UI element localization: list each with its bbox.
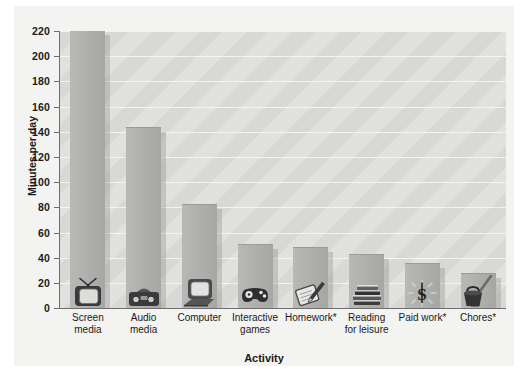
desktop-computer-icon	[181, 275, 217, 307]
x-axis-category-label: Chores*	[444, 312, 512, 324]
dollar-coin-icon: S	[404, 275, 440, 307]
y-axis-title: Minutes per day	[26, 96, 38, 216]
bar[interactable]	[70, 31, 105, 308]
y-axis-tick	[54, 182, 60, 183]
y-axis-tick	[54, 81, 60, 82]
y-axis-tick	[54, 207, 60, 208]
y-axis-tick	[54, 157, 60, 158]
boombox-icon	[126, 275, 162, 307]
y-axis-tick	[54, 233, 60, 234]
y-axis-tick	[54, 283, 60, 284]
category-label-line: Chores*	[444, 312, 512, 324]
y-axis-tick	[54, 31, 60, 32]
y-axis-tick	[54, 308, 60, 309]
y-axis-tick-label: 200	[6, 50, 50, 62]
gridline	[60, 81, 506, 82]
gridline	[60, 56, 506, 57]
y-axis-tick	[54, 132, 60, 133]
category-label-line: games	[221, 324, 289, 336]
category-label-line: for leisure	[333, 324, 401, 336]
plot-area: S	[60, 31, 506, 308]
gridline	[60, 31, 506, 32]
x-axis-title: Activity	[0, 352, 528, 364]
category-label-line: media	[110, 324, 178, 336]
notebook-pencil-icon	[293, 275, 329, 307]
y-axis-tick	[54, 56, 60, 57]
x-axis-line	[59, 308, 506, 309]
gridline	[60, 107, 506, 108]
y-axis-tick-label: 20	[6, 277, 50, 289]
y-axis-tick	[54, 107, 60, 108]
y-axis-tick-label: 180	[6, 75, 50, 87]
y-axis-tick-label: 60	[6, 227, 50, 239]
y-axis-line	[59, 31, 60, 309]
y-axis-tick-label: 0	[6, 302, 50, 314]
television-icon	[70, 275, 106, 307]
bar-chart-figure: 020406080100120140160180200220 Minutes p…	[0, 0, 528, 392]
y-axis-tick-label: 40	[6, 252, 50, 264]
stack-of-books-icon	[349, 275, 385, 307]
y-axis-tick-label: 220	[6, 25, 50, 37]
bucket-broom-icon	[460, 275, 496, 307]
game-controller-icon	[237, 275, 273, 307]
y-axis-tick	[54, 258, 60, 259]
